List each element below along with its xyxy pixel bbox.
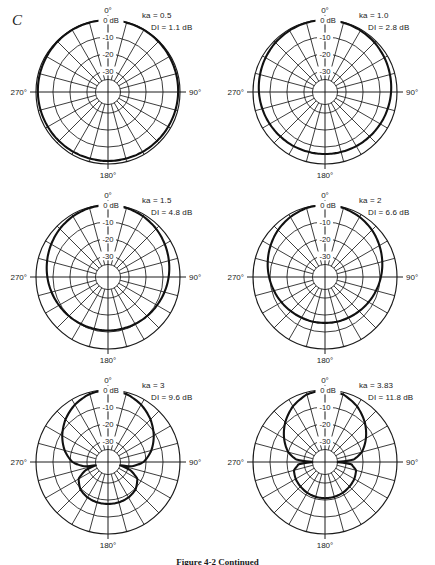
angle-label-270: 270° — [227, 88, 244, 97]
angle-label-180: 180° — [317, 356, 334, 365]
angle-label-270: 270° — [10, 88, 27, 97]
angle-label-0: 0° — [321, 6, 329, 15]
plot-annotation: ka = 3.83DI = 11.8 dB — [359, 380, 413, 403]
angle-label-270: 270° — [10, 273, 27, 282]
radial-tick-label: 0 dB — [103, 386, 119, 395]
angle-label-90: 90° — [189, 458, 201, 467]
radial-tick-label: -30 — [103, 252, 114, 261]
angle-label-180: 180° — [100, 541, 117, 550]
radial-tick-label: 0 dB — [320, 201, 336, 210]
radial-tick-label: -10 — [320, 218, 331, 227]
angle-label-90: 90° — [406, 458, 418, 467]
angle-label-180: 180° — [100, 171, 117, 180]
di-label: DI = 11.8 dB — [368, 392, 413, 404]
angle-label-90: 90° — [406, 88, 418, 97]
radial-tick-label: 0 dB — [320, 16, 336, 25]
radial-tick-label: -10 — [320, 403, 331, 412]
angle-label-0: 0° — [321, 376, 329, 385]
radial-tick-label: -30 — [103, 437, 114, 446]
angle-label-270: 270° — [10, 458, 27, 467]
radial-tick-label: 0 dB — [103, 16, 119, 25]
ka-label: ka = 1.0 — [359, 10, 409, 22]
di-label: DI = 6.6 dB — [368, 207, 409, 219]
radial-tick-label: -10 — [103, 33, 114, 42]
angle-label-90: 90° — [189, 88, 201, 97]
radial-tick-label: -30 — [320, 252, 331, 261]
di-label: DI = 4.8 dB — [151, 207, 192, 219]
radial-tick-label: -20 — [103, 50, 114, 59]
radial-tick-label: -20 — [103, 420, 114, 429]
radial-tick-label: -10 — [103, 403, 114, 412]
ka-label: ka = 0.5 — [142, 10, 192, 22]
radial-tick-label: -30 — [103, 67, 114, 76]
di-label: DI = 1.1 dB — [151, 22, 192, 34]
figure-caption: Figure 4-2 Continued — [0, 557, 435, 565]
angle-label-180: 180° — [317, 171, 334, 180]
polar-plot-1: 0 dB-10-20-300°90°180°270°ka = 1.0DI = 2… — [217, 0, 435, 185]
angle-label-90: 90° — [189, 273, 201, 282]
radial-tick-label: -20 — [320, 235, 331, 244]
ka-label: ka = 3 — [142, 380, 192, 392]
radial-tick-label: 0 dB — [320, 386, 336, 395]
ka-label: ka = 2 — [359, 195, 409, 207]
radial-tick-label: -20 — [320, 420, 331, 429]
radial-tick-label: -10 — [103, 218, 114, 227]
angle-label-180: 180° — [317, 541, 334, 550]
radial-tick-label: -10 — [320, 33, 331, 42]
ka-label: ka = 3.83 — [359, 380, 413, 392]
plot-annotation: ka = 0.5DI = 1.1 dB — [142, 10, 192, 33]
radial-tick-label: -20 — [103, 235, 114, 244]
di-label: DI = 2.8 dB — [368, 22, 409, 34]
angle-label-270: 270° — [227, 458, 244, 467]
angle-label-0: 0° — [104, 6, 112, 15]
polar-plot-4: 0 dB-10-20-300°90°180°270°ka = 3DI = 9.6… — [0, 370, 217, 555]
plot-annotation: ka = 3DI = 9.6 dB — [142, 380, 192, 403]
angle-label-0: 0° — [321, 191, 329, 200]
radial-tick-label: 0 dB — [103, 201, 119, 210]
plot-annotation: ka = 1.5DI = 4.8 dB — [142, 195, 192, 218]
angle-label-270: 270° — [227, 273, 244, 282]
angle-label-180: 180° — [100, 356, 117, 365]
angle-label-0: 0° — [104, 376, 112, 385]
polar-plot-3: 0 dB-10-20-300°90°180°270°ka = 2DI = 6.6… — [217, 185, 435, 370]
polar-plot-5: 0 dB-10-20-300°90°180°270°ka = 3.83DI = … — [217, 370, 435, 555]
radial-tick-label: -30 — [320, 437, 331, 446]
angle-label-0: 0° — [104, 191, 112, 200]
di-label: DI = 9.6 dB — [151, 392, 192, 404]
plot-annotation: ka = 2DI = 6.6 dB — [359, 195, 409, 218]
polar-plot-0: 0 dB-10-20-300°90°180°270°ka = 0.5DI = 1… — [0, 0, 217, 185]
polar-plot-2: 0 dB-10-20-300°90°180°270°ka = 1.5DI = 4… — [0, 185, 217, 370]
radial-tick-label: -20 — [320, 50, 331, 59]
ka-label: ka = 1.5 — [142, 195, 192, 207]
angle-label-90: 90° — [406, 273, 418, 282]
radial-tick-label: -30 — [320, 67, 331, 76]
plot-annotation: ka = 1.0DI = 2.8 dB — [359, 10, 409, 33]
